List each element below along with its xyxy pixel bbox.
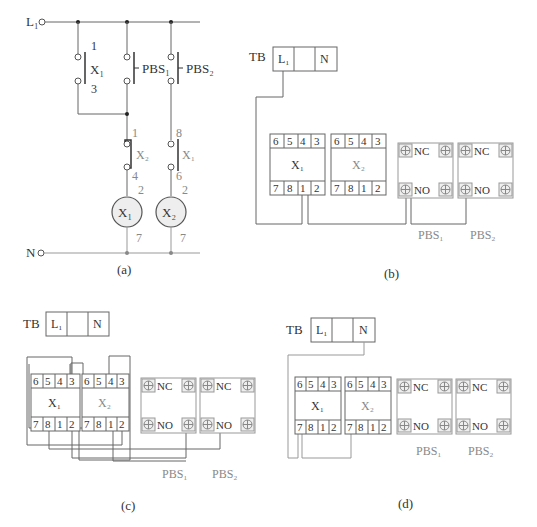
- svg-text:X₁: X₁: [48, 396, 61, 410]
- terminal-block: L₁ N: [46, 312, 109, 336]
- svg-text:7: 7: [136, 231, 142, 245]
- svg-text:3: 3: [314, 135, 320, 147]
- rail-n-terminal-icon: [38, 250, 44, 256]
- svg-text:5: 5: [308, 378, 314, 390]
- svg-text:6: 6: [347, 378, 353, 390]
- svg-text:6: 6: [33, 375, 39, 387]
- svg-text:8: 8: [348, 182, 354, 194]
- svg-text:NO: NO: [474, 184, 490, 196]
- push-button-block-pbs2: NC NO PBS₂: [456, 379, 511, 458]
- svg-text:1: 1: [91, 39, 97, 53]
- svg-text:5: 5: [96, 375, 102, 387]
- relay-x1: 6 5 4 3 X₁ 7 8 1 2: [295, 377, 341, 434]
- svg-text:1: 1: [300, 182, 306, 194]
- caption-d: (d): [398, 496, 413, 511]
- svg-text:NC: NC: [216, 380, 231, 392]
- svg-text:6: 6: [176, 169, 182, 183]
- panel-c-wiring: TB L₁ N 6 5 4 3 X₁ 7 8: [23, 312, 255, 513]
- svg-text:1: 1: [132, 126, 138, 140]
- relay-x2: 6 5 4 3 X₂ 7 8 1 2: [331, 134, 386, 195]
- svg-text:NC: NC: [472, 381, 487, 393]
- svg-text:8: 8: [45, 418, 51, 430]
- svg-text:3: 3: [331, 378, 337, 390]
- svg-text:PBS₂: PBS₂: [186, 61, 214, 76]
- svg-text:2: 2: [182, 183, 188, 197]
- svg-text:3: 3: [381, 378, 387, 390]
- relay-x1: 6 5 4 3 X₁ 7 8 1 2: [270, 134, 325, 195]
- svg-text:L₁: L₁: [316, 323, 328, 337]
- caption-c: (c): [121, 498, 135, 513]
- svg-text:NO: NO: [216, 419, 232, 431]
- svg-text:L₁: L₁: [278, 52, 290, 66]
- svg-text:8: 8: [308, 421, 314, 433]
- svg-text:4: 4: [108, 375, 114, 387]
- push-button-block-pbs2: NC NO PBS₂: [458, 143, 513, 242]
- svg-text:7: 7: [84, 418, 90, 430]
- svg-text:4: 4: [300, 135, 306, 147]
- svg-text:X₂: X₂: [162, 205, 176, 220]
- svg-text:1: 1: [361, 182, 367, 194]
- svg-text:X₁: X₁: [311, 399, 324, 413]
- svg-text:NC: NC: [474, 145, 489, 157]
- svg-text:5: 5: [45, 375, 51, 387]
- svg-text:NC: NC: [414, 145, 429, 157]
- svg-text:4: 4: [370, 378, 376, 390]
- svg-text:X₁: X₁: [182, 148, 195, 162]
- svg-text:PBS₁: PBS₁: [142, 61, 170, 76]
- svg-text:3: 3: [119, 375, 125, 387]
- svg-text:5: 5: [358, 378, 364, 390]
- panel-a-ladder-diagram: L₁ 1 3 X₁ PBS₁: [26, 14, 214, 277]
- svg-text:1: 1: [370, 421, 376, 433]
- svg-text:PBS₁: PBS₁: [416, 444, 442, 458]
- rail-l1-terminal-icon: [39, 19, 45, 25]
- svg-text:PBS₁: PBS₁: [162, 467, 188, 481]
- svg-text:8: 8: [287, 182, 293, 194]
- svg-text:6: 6: [297, 378, 303, 390]
- svg-text:TB: TB: [286, 322, 303, 337]
- svg-text:N: N: [93, 317, 102, 331]
- svg-text:5: 5: [348, 135, 354, 147]
- svg-text:NO: NO: [413, 420, 429, 432]
- svg-text:TB: TB: [23, 316, 40, 331]
- svg-text:7: 7: [33, 418, 39, 430]
- panel-b-wiring: TB L₁ N 6 5 4 3 X₁ 7 8 1 2: [249, 47, 513, 281]
- svg-text:4: 4: [57, 375, 63, 387]
- svg-text:X₂: X₂: [352, 158, 365, 172]
- svg-text:PBS₂: PBS₂: [212, 467, 238, 481]
- svg-text:2: 2: [69, 418, 75, 430]
- coil-x1: 2 X₁ 7: [112, 183, 144, 253]
- svg-text:7: 7: [273, 182, 279, 194]
- svg-text:3: 3: [69, 375, 75, 387]
- svg-text:5: 5: [287, 135, 293, 147]
- relay-x2: 6 5 4 3 X₂ 7 8 1 2: [82, 374, 129, 431]
- svg-text:2: 2: [331, 421, 337, 433]
- push-button-block-pbs1: NC NO PBS₁: [398, 143, 453, 242]
- svg-text:X₂: X₂: [361, 399, 374, 413]
- svg-text:1: 1: [57, 418, 63, 430]
- svg-text:X₁: X₁: [118, 205, 132, 220]
- svg-text:NO: NO: [414, 184, 430, 196]
- caption-a: (a): [117, 262, 131, 277]
- svg-text:2: 2: [138, 183, 144, 197]
- svg-text:1: 1: [320, 421, 326, 433]
- relay-x2: 6 5 4 3 X₂ 7 8 1 2: [345, 377, 391, 434]
- svg-text:8: 8: [176, 126, 182, 140]
- caption-b: (b): [384, 266, 399, 281]
- svg-text:2: 2: [381, 421, 387, 433]
- svg-text:X₁: X₁: [90, 62, 104, 77]
- relay-x1: 6 5 4 3 X₁ 7 8 1 2: [31, 374, 80, 431]
- svg-text:7: 7: [347, 421, 353, 433]
- rail-l1-label: L₁: [26, 14, 38, 29]
- svg-text:L₁: L₁: [51, 317, 63, 331]
- push-button-pbs1: PBS₁: [124, 22, 170, 135]
- svg-text:6: 6: [334, 135, 340, 147]
- svg-text:7: 7: [297, 421, 303, 433]
- svg-text:PBS₂: PBS₂: [468, 444, 494, 458]
- svg-text:X₂: X₂: [136, 148, 149, 162]
- svg-text:X₁: X₁: [291, 158, 304, 172]
- svg-text:NO: NO: [157, 419, 173, 431]
- svg-text:X₂: X₂: [98, 396, 111, 410]
- svg-text:NC: NC: [413, 381, 428, 393]
- push-button-block-pbs1: NC NO PBS₁: [141, 378, 196, 481]
- svg-text:3: 3: [375, 135, 381, 147]
